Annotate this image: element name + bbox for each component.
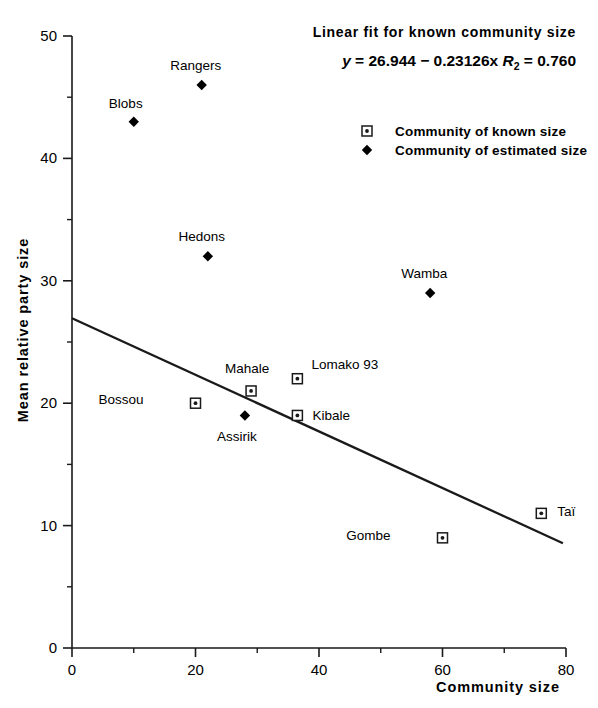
data-point-label: Blobs — [109, 96, 143, 111]
fit-annotation: Linear fit for known community size y = … — [313, 24, 576, 72]
data-point-known-mahale — [246, 386, 256, 396]
data-point-estimated-wamba — [425, 288, 435, 298]
marker-center-dot — [295, 377, 299, 381]
x-tick-label: 0 — [68, 661, 76, 678]
legend-marker-known — [362, 126, 372, 136]
data-point-label: Mahale — [225, 361, 269, 376]
data-point-label: Gombe — [346, 528, 390, 543]
legend-label-estimated: Community of estimated size — [395, 143, 587, 158]
regression-line — [72, 318, 563, 543]
data-point-estimated-blobs — [129, 116, 139, 126]
fit-eq-body: = 26.944 − 0.23126x — [351, 52, 503, 69]
data-point-label: Wamba — [401, 266, 448, 281]
fit-line — [72, 318, 563, 543]
marker-center-dot — [295, 414, 299, 418]
data-point-estimated-rangers — [196, 80, 206, 90]
y-axis-title: Mean relative party size — [15, 238, 31, 422]
marker-center-dot — [365, 129, 369, 133]
data-point-estimated-hedons — [203, 251, 213, 261]
legend-label-known: Community of known size — [395, 124, 566, 139]
marker-center-dot — [539, 511, 543, 515]
x-tick-label: 80 — [558, 661, 575, 678]
data-point-label: Kibale — [312, 408, 350, 423]
x-axis-title-text: Community size — [436, 679, 560, 695]
data-point-label: Hedons — [179, 229, 226, 244]
data-point-known-kibale — [292, 410, 302, 420]
data-point-label: Assirik — [217, 429, 257, 444]
data-point-label: Lomako 93 — [311, 357, 378, 372]
data-point-label: Taï — [557, 504, 575, 519]
scatter-plot-svg: 01020304050020406080 BossouMahaleLomako … — [0, 0, 598, 708]
marker-center-dot — [249, 389, 253, 393]
y-tick-label: 0 — [49, 639, 57, 656]
y-tick-label: 50 — [40, 27, 57, 44]
marker-center-dot — [441, 536, 445, 540]
data-point-known-gombe — [438, 533, 448, 543]
x-tick-label: 60 — [434, 661, 451, 678]
marker-center-dot — [194, 401, 198, 405]
y-tick-label: 30 — [40, 272, 57, 289]
y-axis-title-text: Mean relative party size — [15, 238, 31, 422]
y-tick-label: 20 — [40, 394, 57, 411]
x-tick-label: 40 — [311, 661, 328, 678]
y-tick-label: 40 — [40, 149, 57, 166]
data-point-known-bossou — [191, 398, 201, 408]
fit-eq-r-value: = 0.760 — [520, 52, 576, 69]
legend: Community of known sizeCommunity of esti… — [362, 124, 588, 158]
data-point-label: Rangers — [170, 58, 221, 73]
fit-equation-text: y = 26.944 − 0.23126x R2 = 0.760 — [341, 52, 576, 72]
data-point-known-taï — [536, 508, 546, 518]
chart-figure: 01020304050020406080 BossouMahaleLomako … — [0, 0, 598, 708]
x-axis-title: Community size — [436, 679, 560, 695]
data-point-estimated-assirik — [240, 410, 250, 420]
data-point-label: Bossou — [98, 392, 143, 407]
legend-marker-estimated — [362, 145, 372, 155]
y-tick-label: 10 — [40, 517, 57, 534]
fit-title-text: Linear fit for known community size — [313, 24, 576, 40]
fit-eq-r: R — [503, 52, 515, 69]
x-tick-label: 20 — [187, 661, 204, 678]
data-point-known-lomako-93 — [292, 374, 302, 384]
